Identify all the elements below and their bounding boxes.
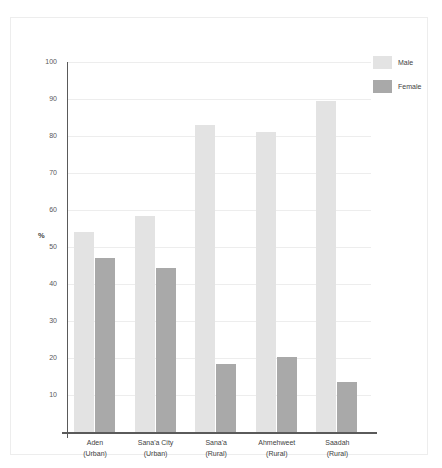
bar-male: [256, 132, 276, 432]
bar-female: [277, 357, 297, 432]
y-axis-label: %: [38, 231, 45, 240]
y-tick-label: 40: [31, 280, 57, 288]
chart-legend: MaleFemale: [373, 56, 442, 104]
legend-item-female[interactable]: Female: [373, 80, 442, 93]
y-tick-label: 30: [31, 317, 57, 325]
bar-female: [156, 268, 176, 432]
bar-female: [216, 364, 236, 432]
bar-female: [95, 258, 115, 432]
y-tick-label: 100: [31, 58, 57, 66]
legend-label: Male: [398, 59, 413, 66]
x-category-label-line: (Rural): [301, 449, 373, 460]
legend-swatch-female: [373, 80, 392, 93]
gridline: [68, 99, 371, 100]
bar-male: [195, 125, 215, 432]
gridline: [68, 62, 371, 63]
bar-female: [337, 382, 357, 432]
y-tick-label: 20: [31, 354, 57, 362]
y-tick-label: 70: [31, 169, 57, 177]
y-tick-label: 90: [31, 95, 57, 103]
x-category-label: Saadah(Rural): [301, 438, 373, 459]
legend-swatch-male: [373, 56, 392, 69]
chart-frame: % MaleFemale 102030405060708090100Aden(U…: [10, 17, 428, 455]
legend-label: Female: [398, 83, 421, 90]
plot-area: [68, 62, 371, 432]
bar-male: [135, 216, 155, 432]
bar-male: [316, 101, 336, 432]
y-tick-label: 60: [31, 206, 57, 214]
legend-item-male[interactable]: Male: [373, 56, 442, 69]
bar-male: [74, 232, 94, 432]
y-tick-label: 80: [31, 132, 57, 140]
x-category-label-line: Saadah: [301, 438, 373, 449]
y-tick-label: 10: [31, 391, 57, 399]
x-axis-line: [62, 432, 377, 434]
chart-screenshot: % MaleFemale 102030405060708090100Aden(U…: [0, 0, 442, 468]
y-tick-label: 50: [31, 243, 57, 251]
